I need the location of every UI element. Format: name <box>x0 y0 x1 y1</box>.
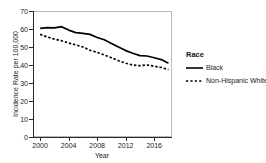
series-line-black <box>40 27 168 64</box>
y-tick-label: 30 <box>20 80 28 87</box>
legend-title: Race <box>186 50 264 59</box>
x-tick-mark <box>40 137 41 141</box>
x-tick-label: 2012 <box>118 142 134 149</box>
chart-figure: 010203040506070 20002004200820122016 Yea… <box>0 0 266 163</box>
x-tick-mark <box>97 137 98 141</box>
series-plot-area <box>33 11 172 137</box>
x-axis-line <box>33 137 172 138</box>
legend-label-black: Black <box>206 64 223 72</box>
x-tick-mark <box>154 137 155 141</box>
y-tick-label: 60 <box>20 26 28 33</box>
x-tick-mark <box>126 137 127 141</box>
legend-item-non-hispanic-white[interactable]: Non-Hispanic White <box>186 77 264 85</box>
y-tick-mark <box>29 137 33 138</box>
legend-label-non-hispanic-white: Non-Hispanic White <box>206 77 266 85</box>
y-tick-label: 40 <box>20 62 28 69</box>
legend-item-black[interactable]: Black <box>186 64 264 72</box>
x-tick-label: 2016 <box>146 142 162 149</box>
x-tick-label: 2000 <box>32 142 48 149</box>
solid-line-key <box>186 64 203 72</box>
x-tick-mark <box>69 137 70 141</box>
y-tick-label: 70 <box>20 8 28 15</box>
y-tick-label: 50 <box>20 44 28 51</box>
y-tick-label: 0 <box>24 134 28 141</box>
x-axis-title: Year <box>95 152 109 159</box>
legend: Race Black Non-Hispanic White <box>186 50 264 90</box>
y-tick-label: 10 <box>20 116 28 123</box>
y-tick-label: 20 <box>20 98 28 105</box>
y-axis-title: Incidence Rate per 100,000 <box>12 19 19 129</box>
x-tick-label: 2008 <box>89 142 105 149</box>
x-tick-label: 2004 <box>61 142 77 149</box>
dashed-line-key <box>186 77 203 85</box>
